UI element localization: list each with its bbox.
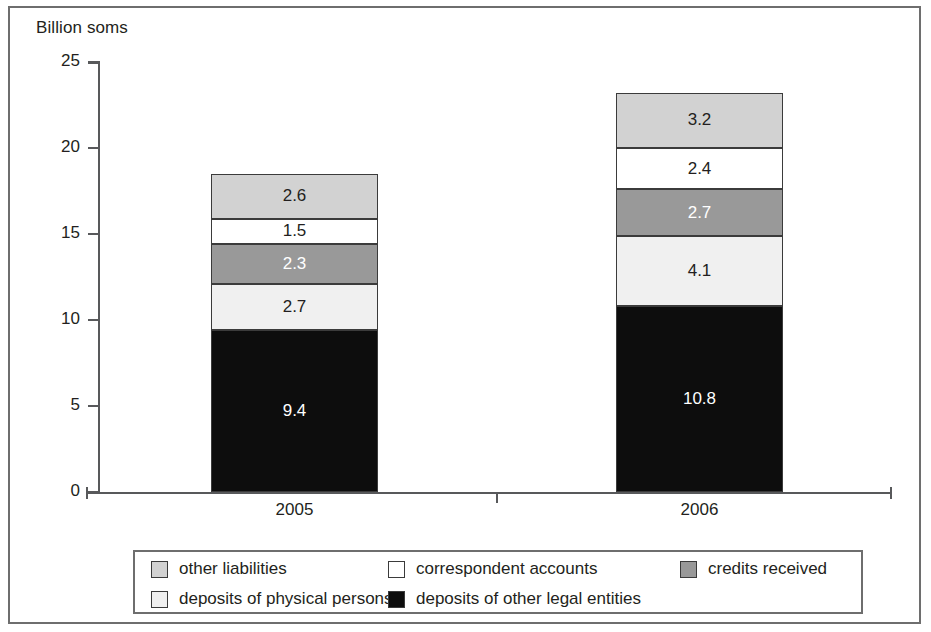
x-axis-tick-label: 2006 bbox=[600, 500, 800, 520]
legend-row: other liabilitiescorrespondent accountsc… bbox=[135, 554, 861, 584]
legend-swatch bbox=[151, 561, 168, 578]
y-axis-tick-label: 5 bbox=[20, 395, 80, 415]
bar-segment-value: 3.2 bbox=[688, 110, 712, 130]
y-axis-line bbox=[98, 62, 100, 494]
x-axis-mid-tick bbox=[496, 492, 498, 503]
legend-swatch bbox=[151, 591, 168, 608]
stacked-bar-2006: 10.84.12.72.43.2 bbox=[616, 62, 783, 492]
y-axis-tick bbox=[88, 405, 100, 407]
bar-segment-value: 1.5 bbox=[283, 221, 307, 241]
legend-row: deposits of physical personsdeposits of … bbox=[135, 584, 861, 614]
legend-item[interactable]: credits received bbox=[680, 559, 827, 579]
bar-segment-credits-received[interactable]: 2.7 bbox=[616, 189, 783, 235]
bar-segment-deposits-of-other-legal-entities[interactable]: 9.4 bbox=[211, 330, 378, 492]
legend-label: deposits of physical persons bbox=[179, 589, 393, 609]
chart-figure: Billion soms 2520151050 9.42.72.31.52.61… bbox=[0, 0, 931, 632]
bar-segment-correspondent-accounts[interactable]: 2.4 bbox=[616, 148, 783, 189]
x-axis-right-cap bbox=[890, 487, 892, 499]
bar-segment-deposits-of-physical-persons[interactable]: 2.7 bbox=[211, 284, 378, 330]
legend-item[interactable]: other liabilities bbox=[151, 559, 287, 579]
bar-segment-value: 2.4 bbox=[688, 159, 712, 179]
y-axis-tick-label: 10 bbox=[20, 309, 80, 329]
figure-border bbox=[8, 6, 921, 624]
legend-label: credits received bbox=[708, 559, 827, 579]
y-axis-title: Billion soms bbox=[36, 18, 128, 38]
bar-segment-other-liabilities[interactable]: 2.6 bbox=[211, 174, 378, 219]
legend-item[interactable]: deposits of physical persons bbox=[151, 589, 393, 609]
x-axis-left-cap bbox=[86, 487, 88, 499]
bar-segment-value: 10.8 bbox=[683, 389, 716, 409]
legend-item[interactable]: correspondent accounts bbox=[388, 559, 597, 579]
legend-label: correspondent accounts bbox=[416, 559, 597, 579]
bar-segment-correspondent-accounts[interactable]: 1.5 bbox=[211, 219, 378, 245]
bar-segment-deposits-of-physical-persons[interactable]: 4.1 bbox=[616, 236, 783, 307]
bar-segment-value: 2.3 bbox=[283, 254, 307, 274]
bar-segment-deposits-of-other-legal-entities[interactable]: 10.8 bbox=[616, 306, 783, 492]
bar-segment-value: 2.7 bbox=[283, 297, 307, 317]
legend-swatch bbox=[388, 591, 405, 608]
legend-swatch bbox=[680, 561, 697, 578]
bar-segment-value: 2.6 bbox=[283, 186, 307, 206]
bar-segment-credits-received[interactable]: 2.3 bbox=[211, 244, 378, 284]
y-axis-tick bbox=[88, 233, 100, 235]
bar-segment-value: 4.1 bbox=[688, 261, 712, 281]
y-axis-tick bbox=[88, 319, 100, 321]
bar-segment-other-liabilities[interactable]: 3.2 bbox=[616, 93, 783, 148]
legend-swatch bbox=[388, 561, 405, 578]
y-axis-tick bbox=[88, 491, 100, 493]
y-axis-tick-label: 20 bbox=[20, 137, 80, 157]
x-axis-tick-label: 2005 bbox=[195, 500, 395, 520]
legend-item[interactable]: deposits of other legal entities bbox=[388, 589, 641, 609]
bar-segment-value: 2.7 bbox=[688, 203, 712, 223]
y-axis-tick-label: 15 bbox=[20, 223, 80, 243]
y-axis-tick-label: 25 bbox=[20, 51, 80, 71]
legend-label: deposits of other legal entities bbox=[416, 589, 641, 609]
y-axis-tick bbox=[88, 147, 100, 149]
legend-label: other liabilities bbox=[179, 559, 287, 579]
bar-segment-value: 9.4 bbox=[283, 401, 307, 421]
x-axis-line bbox=[86, 492, 892, 494]
y-axis-tick-label: 0 bbox=[20, 481, 80, 501]
y-axis-tick bbox=[88, 61, 100, 63]
stacked-bar-2005: 9.42.72.31.52.6 bbox=[211, 62, 378, 492]
legend: other liabilitiescorrespondent accountsc… bbox=[133, 550, 863, 614]
